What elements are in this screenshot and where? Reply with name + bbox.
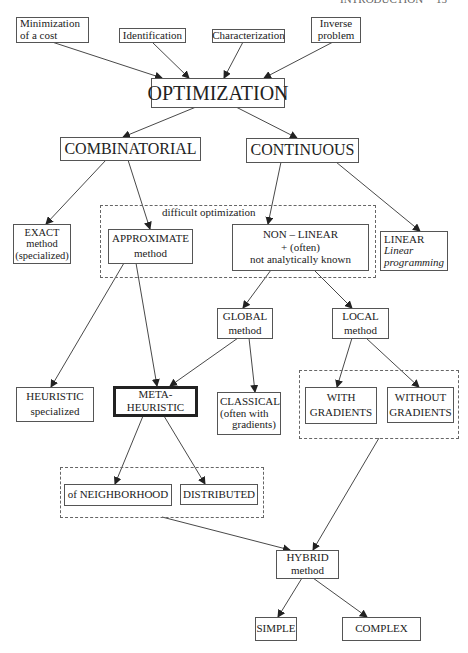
node-inverse-problem[interactable]: Inverse problem: [311, 17, 361, 43]
node-of-neighborhood[interactable]: of NEIGHBORHOOD: [64, 484, 172, 506]
node-label: GRADIENTS: [310, 407, 372, 419]
node-label: (specialized): [15, 250, 69, 261]
node-label: EXACT: [25, 227, 60, 238]
node-minimization-of-a-cost[interactable]: Minimization of a cost: [16, 17, 89, 43]
node-label: of a cost: [20, 30, 57, 42]
node-label: method: [344, 325, 377, 337]
node-nonlinear[interactable]: NON – LINEAR + (often) not analytically …: [232, 224, 369, 271]
node-label: HEURISTIC: [127, 402, 184, 414]
node-label: not analytically known: [250, 254, 351, 266]
optimization-taxonomy-diagram: INTRODUCTION 15: [0, 0, 468, 653]
node-identification[interactable]: Identification: [119, 28, 186, 43]
node-local-method[interactable]: LOCAL method: [332, 308, 389, 339]
node-label: method: [291, 565, 324, 577]
node-linear-programming[interactable]: LINEAR Linear programming: [380, 231, 448, 271]
node-label: GLOBAL: [223, 311, 268, 323]
node-optimization[interactable]: OPTIMIZATION: [151, 78, 285, 108]
node-without-gradients[interactable]: WITHOUT GRADIENTS: [387, 387, 454, 423]
node-label: Characterization: [212, 30, 285, 42]
edge-inverse-optimization: [264, 42, 333, 78]
edge-global-metaheuristic: [170, 338, 238, 386]
node-label: of NEIGHBORHOOD: [68, 489, 169, 501]
node-with-gradients[interactable]: WITH GRADIENTS: [305, 387, 377, 424]
node-heuristic-specialized[interactable]: HEURISTIC specialized: [16, 387, 94, 422]
edge-characterization-optimization: [224, 42, 243, 78]
edge-hybrid-simple: [278, 578, 302, 617]
node-label: programming: [384, 257, 444, 269]
edge-identification-optimization: [152, 42, 189, 78]
edge-gradients-group-hybrid: [313, 438, 379, 550]
node-label: method: [26, 238, 58, 249]
node-label: OPTIMIZATION: [147, 83, 288, 104]
node-classical[interactable]: CLASSICAL (often with gradients): [217, 392, 281, 435]
node-global-method[interactable]: GLOBAL method: [217, 308, 273, 339]
node-label: DISTRIBUTED: [183, 489, 255, 501]
node-characterization[interactable]: Characterization: [212, 29, 285, 43]
node-simple[interactable]: SIMPLE: [255, 617, 297, 641]
node-label: WITHOUT: [395, 392, 446, 404]
node-label: GRADIENTS: [389, 407, 451, 419]
edge-neighborhood-group-hybrid: [162, 517, 290, 550]
node-complex[interactable]: COMPLEX: [342, 617, 421, 641]
node-label: method: [134, 248, 167, 260]
node-hybrid-method[interactable]: HYBRID method: [276, 550, 339, 579]
node-label: + (often): [281, 242, 320, 254]
node-label: problem: [318, 30, 355, 42]
node-label: META-: [139, 389, 173, 401]
node-distributed[interactable]: DISTRIBUTED: [180, 484, 258, 505]
node-label: WITH: [327, 392, 356, 404]
edge-approximate-metaheuristic: [136, 263, 157, 386]
edge-optimization-combinatorial: [123, 107, 196, 137]
node-label: COMPLEX: [355, 623, 408, 635]
edge-global-classical: [249, 338, 255, 392]
node-label: specialized: [31, 406, 80, 418]
node-label: COMBINATORIAL: [64, 141, 196, 158]
node-label: CLASSICAL: [220, 396, 280, 408]
edge-approximate-heuristic: [51, 263, 124, 387]
edge-combinatorial-exact: [46, 160, 106, 224]
node-label: Identification: [123, 30, 182, 42]
node-metaheuristic[interactable]: META- HEURISTIC: [113, 386, 198, 417]
node-label: APPROXIMATE: [112, 233, 189, 245]
node-approximate-method[interactable]: APPROXIMATE method: [108, 229, 193, 264]
node-label: HEURISTIC: [26, 391, 83, 403]
node-label: NON – LINEAR: [263, 229, 338, 241]
node-label: SIMPLE: [256, 623, 295, 635]
difficult-optimization-label: difficult optimization: [162, 206, 256, 218]
edge-hybrid-complex: [313, 578, 367, 617]
node-label: LOCAL: [342, 311, 379, 323]
edge-optimization-continuous: [236, 107, 297, 138]
edge-minimization-optimization: [52, 42, 162, 78]
node-exact-method[interactable]: EXACT method (specialized): [13, 224, 71, 264]
node-label: gradients): [220, 419, 276, 431]
node-label: CONTINUOUS: [251, 142, 355, 159]
node-continuous[interactable]: CONTINUOUS: [246, 138, 359, 163]
node-combinatorial[interactable]: COMBINATORIAL: [60, 137, 201, 161]
node-label: HYBRID: [286, 552, 328, 564]
node-label: method: [229, 325, 262, 337]
